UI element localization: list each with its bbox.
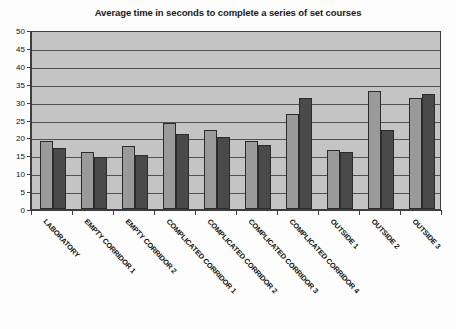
bar: [204, 130, 217, 209]
bar: [135, 155, 148, 209]
y-tick-label: 50: [16, 27, 25, 36]
bar-group: [32, 32, 73, 209]
bar-group: [237, 32, 278, 209]
bar: [53, 148, 66, 209]
y-axis: 05101520253035404550: [0, 31, 31, 210]
plot-area: [31, 31, 441, 210]
x-axis-label: OUTSIDE 3: [411, 217, 443, 251]
x-tick-mark: [31, 211, 32, 215]
x-tick-mark: [400, 211, 401, 215]
y-tick-label: 20: [16, 134, 25, 143]
bar-group: [73, 32, 114, 209]
bar: [327, 150, 340, 209]
y-tick-label: 5: [21, 188, 25, 197]
x-axis-label: COMPLICATED CORRIDOR 1: [165, 217, 239, 295]
x-axis-label: OUTSIDE 1: [329, 217, 361, 251]
y-tick-label: 10: [16, 170, 25, 179]
bars-layer: [32, 32, 440, 209]
y-tick-label: 0: [21, 206, 25, 215]
x-axis-label: COMPLICATED CORRIDOR 2: [206, 217, 280, 295]
bar: [94, 157, 107, 209]
bar: [422, 94, 435, 209]
y-tick-label: 35: [16, 80, 25, 89]
x-tick-mark: [154, 211, 155, 215]
bar: [299, 98, 312, 209]
y-tick-label: 30: [16, 98, 25, 107]
bar: [286, 114, 299, 209]
bar: [217, 137, 230, 209]
x-axis-label: OUTSIDE 2: [370, 217, 402, 251]
x-tick-mark: [113, 211, 114, 215]
bar-group: [114, 32, 155, 209]
bar: [176, 134, 189, 209]
y-tick-label: 40: [16, 62, 25, 71]
x-axis-label: COMPLICATED CORRIDOR 4: [288, 217, 362, 295]
bar: [245, 141, 258, 209]
bar: [409, 98, 422, 209]
bar-group: [278, 32, 319, 209]
y-tick-label: 15: [16, 152, 25, 161]
bar-group: [319, 32, 360, 209]
bar: [381, 130, 394, 209]
bar: [258, 145, 271, 209]
bar-group: [155, 32, 196, 209]
bar-group: [401, 32, 441, 209]
x-tick-mark: [72, 211, 73, 215]
x-axis-label: COMPLICATED CORRIDOR 3: [247, 217, 321, 295]
x-tick-mark: [441, 211, 442, 215]
bar: [40, 141, 53, 209]
x-axis-label: LABORATORY: [42, 217, 82, 259]
bar-group: [196, 32, 237, 209]
chart-title: Average time in seconds to complete a se…: [0, 7, 456, 18]
bar: [340, 152, 353, 209]
bar: [368, 91, 381, 209]
bar: [81, 152, 94, 209]
bar: [122, 146, 135, 209]
x-tick-mark: [359, 211, 360, 215]
x-tick-mark: [195, 211, 196, 215]
bar: [163, 123, 176, 209]
bar-chart-figure: Average time in seconds to complete a se…: [0, 0, 456, 329]
y-tick-label: 45: [16, 44, 25, 53]
y-tick-label: 25: [16, 116, 25, 125]
x-tick-mark: [318, 211, 319, 215]
x-tick-mark: [236, 211, 237, 215]
bar-group: [360, 32, 401, 209]
x-tick-mark: [277, 211, 278, 215]
